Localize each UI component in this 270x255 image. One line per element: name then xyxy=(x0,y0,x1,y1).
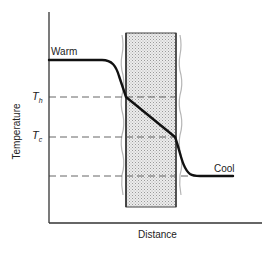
warm-label: Warm xyxy=(51,46,77,57)
diagram-figure: Warm Cool Th Tc Distance Temperature xyxy=(0,0,270,255)
shaded-layer xyxy=(121,33,182,207)
cool-label: Cool xyxy=(214,163,235,174)
x-axis-label: Distance xyxy=(138,229,177,240)
th-label-main: T xyxy=(32,90,39,102)
tc-label-sub: c xyxy=(39,136,43,143)
tc-label: Tc xyxy=(32,129,42,143)
th-label: Th xyxy=(32,90,43,104)
th-label-sub: h xyxy=(39,97,43,104)
tc-label-main: T xyxy=(32,129,39,141)
y-axis-label: Temperature xyxy=(11,101,22,163)
diagram-canvas xyxy=(0,0,270,255)
